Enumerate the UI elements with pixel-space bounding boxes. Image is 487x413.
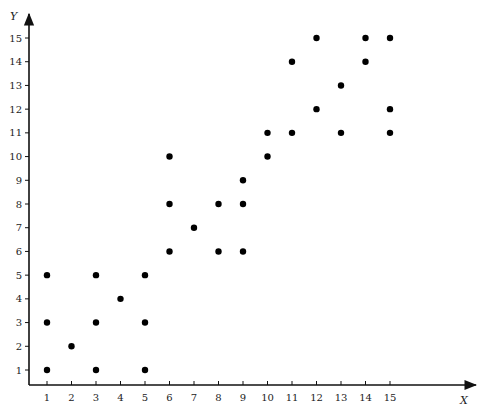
- data-point: [264, 153, 270, 159]
- x-tick-label: 2: [68, 392, 74, 403]
- y-tick-label: 5: [16, 270, 22, 281]
- x-axis-title: X: [459, 394, 469, 407]
- data-point: [313, 35, 319, 41]
- data-point: [191, 225, 197, 231]
- y-tick-label: 6: [16, 246, 22, 257]
- data-point: [313, 106, 319, 112]
- data-point: [240, 201, 246, 207]
- y-tick-label: 15: [9, 33, 22, 44]
- data-point: [387, 106, 393, 112]
- data-point: [387, 130, 393, 136]
- x-tick-label: 3: [93, 392, 99, 403]
- y-tick-label: 7: [16, 222, 22, 233]
- data-point: [215, 248, 221, 254]
- data-point: [166, 153, 172, 159]
- data-point: [142, 319, 148, 325]
- y-tick-label: 4: [16, 293, 22, 304]
- x-tick-label: 10: [261, 392, 274, 403]
- y-tick-label: 1: [16, 365, 22, 376]
- x-tick-label: 6: [166, 392, 172, 403]
- scatter-chart: 123456789101112131415 123456789101112131…: [0, 0, 487, 413]
- y-tick-label: 10: [9, 151, 22, 162]
- x-tick-label: 8: [215, 392, 221, 403]
- axes: [29, 14, 476, 385]
- y-axis-title: Y: [10, 10, 19, 23]
- y-tick-label: 12: [9, 104, 22, 115]
- x-tick-label: 13: [335, 392, 348, 403]
- data-point: [387, 35, 393, 41]
- data-point: [93, 319, 99, 325]
- data-points: [44, 35, 393, 373]
- x-tick-label: 15: [384, 392, 397, 403]
- data-point: [240, 248, 246, 254]
- data-point: [264, 130, 270, 136]
- data-point: [289, 59, 295, 65]
- data-point: [240, 177, 246, 183]
- x-tick-label: 12: [310, 392, 323, 403]
- data-point: [44, 272, 50, 278]
- x-tick-label: 11: [286, 392, 299, 403]
- data-point: [44, 319, 50, 325]
- y-tick-label: 8: [16, 199, 22, 210]
- y-ticks: 123456789101112131415: [9, 33, 29, 376]
- y-tick-label: 14: [9, 56, 22, 67]
- x-tick-label: 7: [191, 392, 197, 403]
- x-tick-label: 14: [359, 392, 372, 403]
- y-tick-label: 2: [16, 341, 22, 352]
- data-point: [166, 201, 172, 207]
- x-tick-label: 5: [142, 392, 148, 403]
- data-point: [362, 35, 368, 41]
- data-point: [44, 367, 50, 373]
- data-point: [93, 272, 99, 278]
- data-point: [142, 367, 148, 373]
- x-tick-label: 1: [44, 392, 50, 403]
- x-tick-label: 9: [240, 392, 246, 403]
- data-point: [142, 272, 148, 278]
- data-point: [338, 130, 344, 136]
- data-point: [117, 296, 123, 302]
- data-point: [166, 248, 172, 254]
- y-tick-label: 11: [9, 127, 22, 138]
- x-tick-label: 4: [117, 392, 123, 403]
- data-point: [289, 130, 295, 136]
- data-point: [338, 82, 344, 88]
- y-tick-label: 9: [16, 175, 22, 186]
- y-tick-label: 13: [9, 80, 22, 91]
- data-point: [93, 367, 99, 373]
- y-tick-label: 3: [16, 317, 22, 328]
- data-point: [362, 59, 368, 65]
- data-point: [68, 343, 74, 349]
- data-point: [215, 201, 221, 207]
